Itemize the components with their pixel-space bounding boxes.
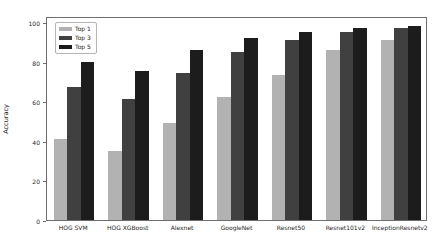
bar-top3-alexnet [176,73,190,220]
bar-top3-resnet50 [285,40,299,220]
bar-top5-hog-xgboost [135,71,149,220]
bar-top1-resnet50 [272,75,286,220]
x-tick-label: HOG XGBoost [107,224,149,231]
y-tick-label: 20 [24,178,40,185]
y-tick-mark [43,102,46,103]
bar-top1-googlenet [217,97,231,220]
bar-top1-hog-xgboost [108,151,122,220]
y-tick-label: 0 [24,218,40,225]
bar-top5-hog-svm [81,62,95,220]
bar-top5-resnet50 [299,32,313,220]
legend-swatch-icon [59,36,72,40]
y-tick-label: 60 [24,99,40,106]
bar-top3-hog-svm [67,87,81,220]
bar-top5-alexnet [190,50,204,220]
y-axis-title: Accuracy [2,104,10,134]
y-tick-mark [43,23,46,24]
bar-top3-googlenet [231,52,245,220]
plot-area: Top 1Top 3Top 5 [46,17,427,221]
y-tick-mark [43,142,46,143]
bar-top3-hog-xgboost [122,99,136,220]
legend-label: Top 1 [75,25,91,33]
figure: Accuracy Top 1Top 3Top 5 020406080100HOG… [0,0,448,243]
bar-top1-inceptionresnetv2 [381,40,395,220]
bar-top1-alexnet [163,123,177,220]
legend-label: Top 5 [75,43,91,51]
x-tick-label: InceptionResnetv2 [372,224,428,231]
y-tick-label: 100 [24,19,40,26]
legend-row: Top 1 [59,25,91,33]
y-tick-mark [43,221,46,222]
bar-top5-inceptionresnetv2 [408,26,422,220]
legend: Top 1Top 3Top 5 [55,22,97,54]
bar-top5-resnet101v2 [353,28,367,220]
y-tick-mark [43,63,46,64]
bar-top1-hog-svm [54,139,68,220]
bar-top3-inceptionresnetv2 [394,28,408,220]
legend-swatch-icon [59,45,72,49]
x-tick-label: HOG SVM [59,224,88,231]
y-tick-mark [43,181,46,182]
x-tick-label: Alexnet [171,224,194,231]
x-tick-label: Resnet50 [277,224,305,231]
bar-top1-resnet101v2 [326,50,340,220]
legend-label: Top 3 [75,34,91,42]
legend-row: Top 5 [59,43,91,51]
y-tick-label: 40 [24,138,40,145]
legend-row: Top 3 [59,34,91,42]
y-tick-label: 80 [24,59,40,66]
x-tick-label: GoogleNet [221,224,253,231]
x-tick-label: Resnet101v2 [326,224,365,231]
bar-top5-googlenet [244,38,258,220]
bar-top3-resnet101v2 [340,32,354,220]
legend-swatch-icon [59,27,72,31]
